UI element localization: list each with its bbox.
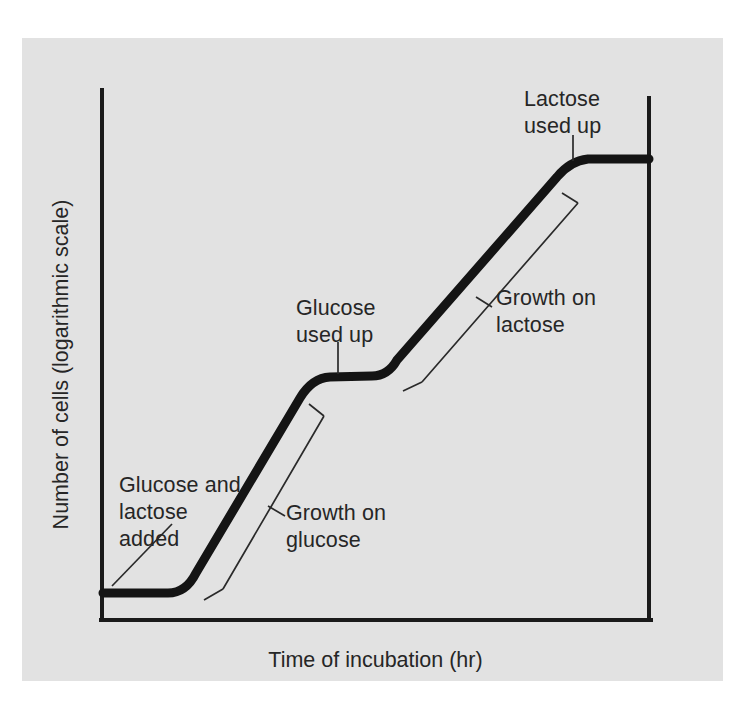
tick-growth-on-glucose xyxy=(268,506,285,516)
tick-growth-on-lactose xyxy=(476,297,492,307)
figure-root: Number of cells (logarithmic scale) Time… xyxy=(0,0,749,707)
growth-curve-chart xyxy=(0,0,749,707)
annotation-lactose-used-up: Lactose used up xyxy=(524,86,601,140)
annotation-growth-on-glucose: Growth on glucose xyxy=(286,500,386,554)
annotation-growth-on-lactose: Growth on lactose xyxy=(496,285,596,339)
annotation-glucose-lactose-added: Glucose and lactose added xyxy=(119,472,241,553)
y-axis-title: Number of cells (logarithmic scale) xyxy=(49,200,74,530)
annotation-glucose-used-up: Glucose used up xyxy=(296,295,376,349)
x-axis-title: Time of incubation (hr) xyxy=(101,648,650,673)
